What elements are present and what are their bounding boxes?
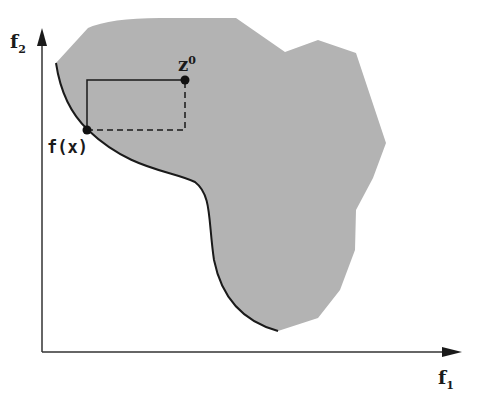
- y-axis-arrow-icon: [37, 28, 47, 46]
- x-axis-arrow-icon: [442, 347, 462, 357]
- diagram-canvas: [0, 0, 483, 410]
- x-axis-label: f1: [438, 366, 454, 392]
- reference-point-marker: [181, 76, 190, 85]
- solution-point-marker: [83, 126, 92, 135]
- solution-point-label: f(x): [47, 137, 88, 157]
- reference-point-label: z0: [178, 54, 196, 75]
- y-axis-label: f2: [10, 30, 26, 56]
